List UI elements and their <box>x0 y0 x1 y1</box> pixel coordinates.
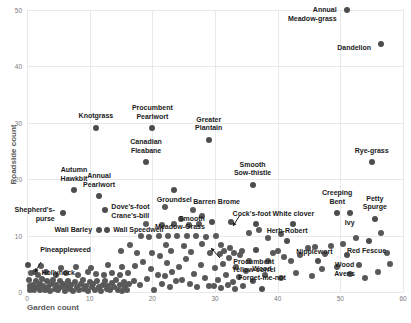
data-point <box>38 263 44 269</box>
data-point <box>353 235 359 241</box>
data-point-labeled <box>369 159 375 165</box>
data-point-labeled <box>344 252 350 258</box>
point-label-line: Spurge <box>363 203 387 212</box>
data-point <box>191 271 197 277</box>
data-point <box>199 241 205 247</box>
point-label-line: Dandelion <box>337 44 371 53</box>
data-point-labeled <box>253 221 259 227</box>
point-label: WoodAvens <box>334 261 355 278</box>
data-point <box>167 284 173 290</box>
data-point-labeled <box>315 258 321 264</box>
data-point-labeled <box>344 7 350 13</box>
data-point <box>293 270 299 276</box>
data-point <box>218 285 224 291</box>
point-label: Rye-grass <box>355 147 389 156</box>
data-point-labeled <box>284 238 290 244</box>
data-point <box>226 255 232 261</box>
data-point <box>265 235 271 241</box>
point-label-line: Crane's-bill <box>111 212 149 221</box>
gridline-horizontal <box>27 292 403 293</box>
point-label: White clover <box>273 210 315 219</box>
data-point-labeled <box>228 219 234 225</box>
data-point <box>375 269 381 275</box>
x-axis-title: Garden count <box>27 303 79 312</box>
data-point-labeled <box>259 286 265 292</box>
x-tick-label: 60 <box>399 295 406 302</box>
data-point-labeled <box>25 262 31 268</box>
data-point <box>184 233 190 239</box>
point-label-line: Red Fescue <box>347 247 386 256</box>
point-label-line: purse <box>15 215 55 224</box>
gridline-vertical <box>27 10 28 292</box>
data-point <box>220 261 226 267</box>
point-label: CanadianFleabane <box>130 138 162 155</box>
data-point <box>223 272 229 278</box>
data-point-labeled <box>171 187 177 193</box>
gridline-vertical <box>215 10 216 292</box>
data-point <box>101 272 107 278</box>
point-label: CreepingBent <box>322 189 352 206</box>
data-point <box>256 227 262 233</box>
data-point <box>203 234 209 240</box>
point-label-line: Nipplewort <box>296 248 332 257</box>
data-point <box>319 266 325 272</box>
data-point <box>174 233 180 239</box>
data-point <box>165 233 171 239</box>
data-point <box>151 287 157 293</box>
point-label-line: Fleabane <box>130 147 162 156</box>
data-point <box>118 248 124 254</box>
point-label-line: Petty <box>363 195 387 204</box>
data-point <box>134 250 140 256</box>
point-label: Barren Brome <box>193 198 240 207</box>
data-point <box>163 242 169 248</box>
y-tick-label: 0 <box>6 289 22 296</box>
data-point <box>246 230 252 236</box>
point-label-line: Rye-grass <box>355 147 389 156</box>
data-point <box>362 275 368 281</box>
point-label-line: Herb-Robert <box>267 227 308 236</box>
point-label: GreaterPlantain <box>195 116 222 133</box>
data-point <box>155 272 161 278</box>
x-tick-label: 40 <box>274 295 281 302</box>
point-label-line: Greater <box>195 116 222 125</box>
plot-area: AnnualMeadow-grassDandelionKnotgrassProc… <box>27 10 403 292</box>
data-point <box>356 262 362 268</box>
data-point <box>80 277 86 283</box>
data-point-labeled <box>334 210 340 216</box>
data-point <box>162 273 168 279</box>
x-tick-label: 20 <box>149 295 156 302</box>
data-point <box>140 259 146 265</box>
data-point <box>162 204 168 210</box>
point-label: ProcumbentPearlwort <box>132 104 173 121</box>
point-label: Red Fescue <box>347 247 386 256</box>
point-label: Wall Barley <box>55 226 92 235</box>
data-point <box>88 265 94 271</box>
data-point <box>125 270 131 276</box>
point-label-line: Wood <box>238 265 285 274</box>
data-point <box>231 250 237 256</box>
point-label: Dove's-footCrane's-bill <box>111 203 149 220</box>
data-point <box>378 230 384 236</box>
point-label: AnnualPearlwort <box>83 172 115 189</box>
data-point <box>117 272 123 278</box>
point-label-line: Pearlwort <box>83 181 115 190</box>
point-label: Cock's-foot <box>233 210 271 219</box>
data-point <box>194 284 200 290</box>
point-label-line: Avens <box>334 270 355 279</box>
data-point <box>173 278 179 284</box>
point-label-line: Wall Barley <box>55 226 92 235</box>
point-label-line: Smooth <box>234 161 271 170</box>
point-label: Dandelion <box>337 44 371 53</box>
data-point <box>179 277 185 283</box>
point-label-line: Forget-me-not <box>238 274 285 283</box>
data-point <box>275 248 281 254</box>
data-point <box>198 262 204 268</box>
data-point <box>137 282 143 288</box>
point-label: SmoothSow-thistle <box>234 161 271 178</box>
data-point <box>212 265 218 271</box>
point-label: Shepherd's-purse <box>15 206 55 223</box>
data-point-labeled <box>32 269 38 275</box>
point-label-line: Annual <box>83 172 115 181</box>
data-point <box>157 253 163 259</box>
point-label: Nipplewort <box>296 248 332 257</box>
